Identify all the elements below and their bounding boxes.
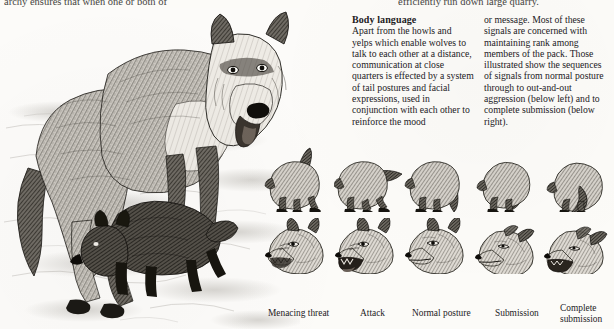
caption-normal-posture: Normal posture — [412, 308, 496, 319]
article-column-left: Body language Apart from the howls and y… — [352, 14, 474, 127]
article-heading: Body language — [352, 14, 474, 25]
caption-complete-submission: Complete submission — [560, 303, 614, 324]
book-page: archy ensures that when one or both of e… — [0, 0, 614, 329]
caption-menacing-threat: Menacing threat — [268, 308, 346, 319]
figure-column-attack — [334, 146, 404, 306]
facial-expression-attack — [334, 218, 404, 274]
tail-posture-attack — [334, 146, 404, 212]
figure-column-normal-posture — [404, 146, 474, 306]
posture-figure-grid — [264, 146, 614, 306]
tail-posture-complete-submission — [544, 146, 614, 212]
running-text-left: archy ensures that when one or both of — [4, 0, 167, 8]
tail-posture-menacing-threat — [264, 146, 334, 212]
article-body-right: or message. Most of these signals are co… — [484, 14, 610, 127]
caption-attack: Attack — [360, 308, 414, 319]
article-column-right: or message. Most of these signals are co… — [484, 14, 610, 127]
article-body-left: Apart from the howls and yelps which ena… — [352, 25, 474, 127]
figure-column-complete-submission — [544, 146, 614, 306]
figure-column-menacing-threat — [264, 146, 334, 306]
running-text-right: efficiently run down large quarry. — [398, 0, 539, 8]
main-illustration-wolf-and-pup — [0, 8, 300, 329]
facial-expression-normal — [404, 218, 474, 274]
tail-posture-submission — [474, 146, 544, 212]
facial-expression-complete-submission — [544, 218, 614, 274]
caption-submission: Submission — [495, 308, 557, 319]
facial-expression-submission — [474, 218, 544, 274]
tail-posture-normal — [404, 146, 474, 212]
facial-expression-menacing-threat — [264, 218, 334, 274]
figure-column-submission — [474, 146, 544, 306]
